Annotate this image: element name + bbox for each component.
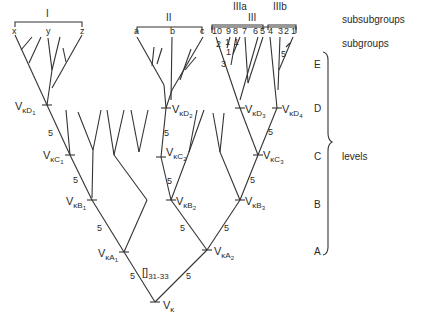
leaf-7: 7 (242, 27, 247, 36)
leaf-b: b (170, 27, 175, 36)
edge-5-B1A1: 5 (97, 224, 102, 233)
group-IIIb: IIIb (273, 2, 287, 12)
node-VkB3: VκB3 (245, 196, 265, 211)
edge-5-C1B1: 5 (73, 176, 78, 185)
edge-5-C2B2: 5 (167, 177, 172, 186)
leaf-8: 8 (233, 27, 238, 36)
branch-num-1b: 1 (234, 38, 239, 47)
level-E: E (314, 60, 321, 70)
level-A: A (314, 247, 321, 257)
node-VkD2: VκD2 (172, 104, 192, 119)
leaf-3: 3 (278, 27, 283, 36)
levels-brace (323, 52, 332, 255)
leaf-y: y (46, 27, 51, 36)
group-III: III (248, 13, 256, 23)
edge-5-A2root: 5 (186, 272, 191, 281)
edge-5-D1C1: 5 (48, 129, 53, 138)
insertion-annotation: []31-33 (142, 267, 169, 281)
legend-levels: levels (342, 152, 368, 162)
group-IIIa: IIIa (233, 2, 247, 12)
edge-5-D4C3: 5 (268, 128, 273, 137)
node-VkB2: VκB2 (176, 196, 196, 211)
node-VkA1: VκA1 (98, 248, 118, 263)
branch-num-1c: 1 (226, 48, 231, 57)
branch-num-5-IIIb: 5 (281, 50, 286, 59)
level-D: D (314, 104, 321, 114)
leaf-6: 6 (253, 27, 258, 36)
leaf-4: 4 (268, 27, 273, 36)
leaf-10: 10 (212, 27, 222, 36)
node-Vk-root: Vκ (163, 300, 174, 314)
branch-num-1a: 1 (225, 38, 230, 47)
legend-subsubgroups: subsubgroups (342, 15, 405, 25)
edge-5-B3A2: 5 (224, 224, 229, 233)
level-C: C (314, 152, 321, 162)
edge-5-A1root: 5 (130, 272, 135, 281)
leaf-c: c (200, 27, 205, 36)
leaf-a: a (134, 27, 139, 36)
node-VkD3: VκD3 (245, 104, 265, 119)
legend-subgroups: subgroups (342, 39, 389, 49)
leaf-1: 1 (291, 27, 296, 36)
edge-5-D2C2: 5 (164, 129, 169, 138)
node-VkD1: VκD1 (15, 101, 35, 116)
subtree-IIIb (270, 37, 293, 108)
subtree-II (137, 37, 203, 108)
node-VkA2: VκA2 (214, 246, 234, 261)
leaf-2: 2 (284, 27, 289, 36)
subtree-IIIa (216, 37, 263, 108)
node-VkB1: VκB1 (66, 196, 86, 211)
node-VkC1: VκC1 (43, 150, 63, 165)
branch-num-2: 2 (216, 40, 221, 49)
leaf-z: z (80, 27, 85, 36)
level-B: B (314, 200, 321, 210)
node-VkC3: VκC3 (263, 150, 283, 165)
node-VkD4: VκD4 (282, 104, 302, 119)
subtree-I (15, 35, 82, 105)
leaf-5: 5 (260, 27, 265, 36)
leaf-9: 9 (226, 27, 231, 36)
group-II: II (166, 13, 172, 23)
edge-5-B2A2: 5 (180, 224, 185, 233)
leaf-x: x (12, 27, 17, 36)
group-I: I (46, 9, 49, 19)
edge-5-C3B3: 5 (250, 176, 255, 185)
branch-num-3: 3 (221, 60, 226, 69)
node-VkC2: VκC2 (166, 147, 186, 162)
